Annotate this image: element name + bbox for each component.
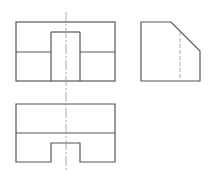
top-view: [16, 104, 115, 162]
front-view: [16, 22, 115, 81]
side-view: [141, 22, 200, 81]
side-outline: [141, 22, 200, 81]
orthographic-drawing: [0, 0, 217, 177]
